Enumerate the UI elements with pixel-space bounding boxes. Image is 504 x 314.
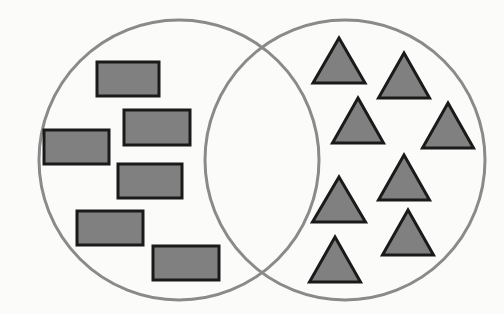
rectangle-item	[77, 211, 143, 245]
triangle-item	[310, 237, 361, 282]
venn-canvas	[0, 0, 504, 314]
triangle-item	[313, 38, 365, 83]
rectangle-item	[124, 110, 190, 145]
triangle-item	[423, 103, 474, 148]
triangle-item	[379, 155, 430, 200]
rectangle-item	[97, 62, 159, 96]
rectangle-item	[153, 246, 219, 280]
triangles-layer	[310, 38, 474, 282]
triangle-item	[313, 177, 366, 222]
triangle-item	[333, 98, 384, 143]
rectangle-item	[44, 130, 109, 164]
triangle-item	[379, 53, 430, 98]
rectangle-item	[118, 164, 182, 198]
venn-diagram	[0, 0, 504, 314]
triangle-item	[383, 210, 434, 255]
